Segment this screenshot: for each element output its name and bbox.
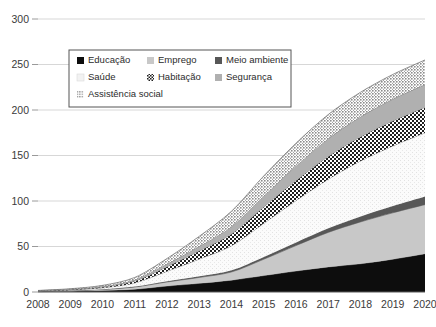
stacked-area-chart: 050100150200250300 200820092010201120122… — [0, 0, 436, 327]
y-axis-tick-label: 0 — [23, 286, 29, 298]
x-axis-tick-label: 2013 — [188, 298, 212, 310]
x-axis-tick-label: 2014 — [220, 298, 244, 310]
x-axis-tick-label: 2020 — [413, 298, 436, 310]
y-axis-tick-label: 150 — [11, 149, 29, 161]
legend-swatch — [77, 57, 84, 64]
legend-item-label: Emprego — [158, 54, 197, 65]
y-axis-tick-labels: 050100150200250300 — [11, 13, 38, 298]
legend-item-label: Segurança — [226, 71, 273, 82]
legend-item-label: Meio ambiente — [226, 54, 288, 65]
legend-swatch — [77, 91, 84, 98]
chart-canvas: 050100150200250300 200820092010201120122… — [0, 0, 436, 327]
legend-item[interactable]: Meio ambiente — [215, 54, 288, 65]
y-axis-tick-label: 250 — [11, 58, 29, 70]
x-axis-tick-label: 2017 — [317, 298, 341, 310]
y-axis-tick-label: 100 — [11, 195, 29, 207]
y-axis-tick-label: 200 — [11, 104, 29, 116]
x-axis-tick-label: 2012 — [155, 298, 179, 310]
legend-swatch — [215, 57, 222, 64]
x-axis-tick-label: 2019 — [381, 298, 405, 310]
x-axis-tick-label: 2018 — [349, 298, 373, 310]
x-axis-tick-labels: 2008200920102011201220132014201520162017… — [26, 298, 436, 310]
legend-item-label: Saúde — [88, 71, 115, 82]
y-axis-tick-label: 300 — [11, 13, 29, 25]
x-axis-tick-label: 2015 — [252, 298, 276, 310]
x-axis-tick-label: 2008 — [26, 298, 50, 310]
x-axis-tick-label: 2009 — [59, 298, 83, 310]
legend-swatch — [147, 57, 154, 64]
legend-item-label: Educação — [88, 54, 130, 65]
x-axis-tick-label: 2010 — [91, 298, 115, 310]
legend-item-label: Habitação — [158, 71, 201, 82]
legend-swatch — [147, 74, 154, 81]
x-axis-tick-label: 2011 — [123, 298, 146, 310]
x-axis-tick-label: 2016 — [284, 298, 308, 310]
y-axis-tick-label: 50 — [17, 240, 29, 252]
chart-legend[interactable]: EducaçãoEmpregoMeio ambienteSaúdeHabitaç… — [69, 50, 291, 107]
legend-item-label: Assistência social — [88, 88, 163, 99]
legend-item[interactable]: Assistência social — [77, 88, 163, 99]
legend-swatch — [77, 74, 84, 81]
legend-swatch — [215, 74, 222, 81]
